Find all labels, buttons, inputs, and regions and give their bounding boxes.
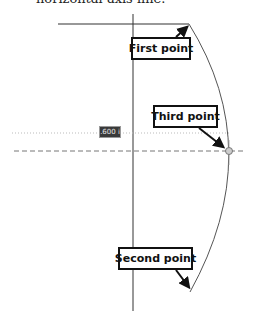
- callout-second-point: Second point: [118, 247, 193, 270]
- first-point-arrow: [176, 28, 186, 37]
- callout-third-point: Third point: [153, 105, 218, 128]
- measurement-tooltip: 1.600 in: [99, 126, 121, 138]
- callout-first-point: First point: [131, 37, 191, 60]
- endpoint-marker[interactable]: [226, 148, 233, 155]
- second-point-arrow: [176, 270, 188, 286]
- drawing-canvas: [0, 0, 254, 325]
- third-point-arrow: [199, 128, 222, 146]
